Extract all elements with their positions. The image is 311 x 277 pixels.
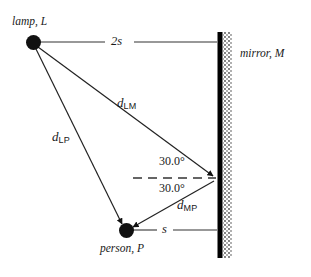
distance-label-dmp: dMP [177, 198, 197, 213]
distance-label-dlp: dLP [52, 130, 70, 145]
lamp-point [26, 35, 41, 50]
mirror-label: mirror, M [240, 48, 284, 60]
person-point [119, 223, 134, 238]
distance-label-dlm: dLM [117, 96, 136, 111]
dmp-subscript: MP [184, 203, 198, 213]
reflection-diagram: lamp, L mirror, M person, P 2s s 30.0° 3… [0, 0, 311, 277]
dimension-label-s: s [162, 223, 167, 236]
angle-of-reflection-label: 30.0° [159, 182, 185, 194]
dlm-subscript: LM [124, 101, 137, 111]
lamp-label: lamp, L [12, 16, 47, 28]
person-label: person, P [100, 243, 144, 255]
ray-lamp-to-person [36, 49, 122, 224]
angle-of-incidence-label: 30.0° [159, 155, 185, 167]
mirror-surface [218, 32, 223, 258]
dlp-subscript: LP [59, 135, 70, 145]
ray-lamp-to-mirror [38, 47, 213, 176]
mirror-hatching [223, 32, 232, 258]
diagram-canvas [0, 0, 311, 277]
dimension-label-2s: 2s [111, 35, 122, 48]
